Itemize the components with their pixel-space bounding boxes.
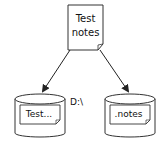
source-document-line2: notes	[68, 26, 103, 40]
right-store-file-label: .notes	[111, 109, 146, 119]
source-document-line1: Test	[68, 12, 103, 26]
left-store-file-label: Test...	[22, 109, 56, 119]
source-document-label: Test notes	[68, 12, 103, 40]
arrow-to-left-store	[43, 50, 70, 91]
arrow-to-right-store	[100, 50, 128, 91]
drive-label: D:\	[70, 97, 95, 107]
